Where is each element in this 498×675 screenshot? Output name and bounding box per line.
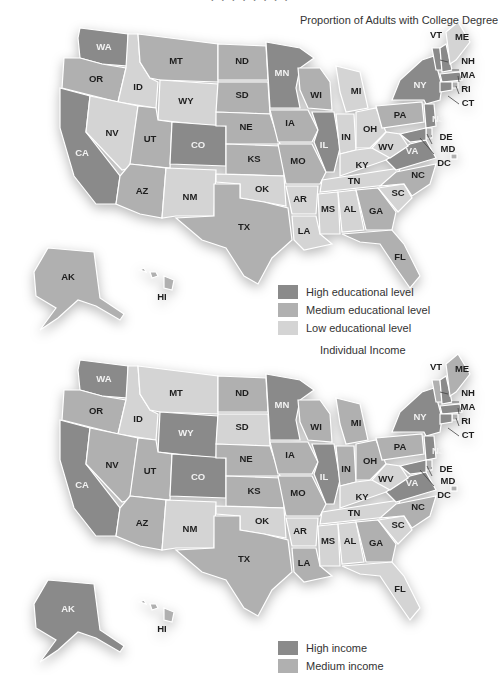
state-label-in: IN [341, 131, 351, 142]
state-label-ut: UT [144, 465, 157, 476]
state-label-ks: KS [247, 485, 260, 496]
state-label-id: ID [133, 81, 143, 92]
state-label-nv: NV [105, 127, 119, 138]
state-label-va: VA [406, 145, 419, 156]
state-label-ms: MS [321, 203, 335, 214]
state-label-vt: VT [430, 29, 442, 40]
state-label-wa: WA [96, 41, 111, 52]
state-label-oh: OH [363, 455, 377, 466]
state-label-al: AL [344, 535, 357, 546]
state-label-ak: AK [61, 271, 75, 282]
legend-swatch-high [278, 641, 298, 655]
state-label-de: DE [439, 131, 452, 142]
state-ri [452, 82, 458, 88]
state-de [426, 128, 432, 138]
education-map: WAORCAIDNVMTWYUTCOAZNMNDSDNEKSOKTXMNIAMO… [0, 8, 489, 338]
map-title: Proportion of Adults with College Degree [300, 14, 498, 26]
state-de [426, 460, 432, 470]
state-label-tx: TX [238, 553, 251, 564]
state-label-ca: CA [75, 147, 89, 158]
legend-swatch-high [278, 285, 298, 299]
state-label-va: VA [406, 477, 419, 488]
legend-swatch-medium [278, 659, 298, 673]
state-label-mi: MI [351, 417, 362, 428]
state-label-ar: AR [293, 525, 307, 536]
us-map: WAORCAIDNVMTWYUTCOAZNMNDSDNEKSOKTXMNIAMO… [0, 340, 489, 670]
state-label-la: LA [298, 557, 311, 568]
state-label-vt: VT [430, 361, 442, 372]
state-label-sd: SD [235, 421, 248, 432]
state-label-ri: RI [461, 83, 471, 94]
state-label-ok: OK [255, 515, 269, 526]
legend: High educational level Medium educationa… [278, 283, 430, 337]
state-ct [440, 414, 452, 424]
state-hi [140, 600, 174, 622]
state-label-mt: MT [169, 387, 183, 398]
state-label-or: OR [89, 405, 103, 416]
state-label-co: CO [191, 471, 205, 482]
state-label-tx: TX [238, 221, 251, 232]
state-label-ri: RI [461, 415, 471, 426]
map-title: Individual Income [320, 344, 406, 356]
state-hi [140, 268, 174, 290]
state-label-ne: NE [239, 453, 252, 464]
state-label-mn: MN [275, 399, 290, 410]
state-label-tn: TN [348, 507, 361, 518]
state-label-nh: NH [461, 387, 475, 398]
state-label-ga: GA [369, 205, 383, 216]
state-label-me: ME [455, 31, 469, 42]
state-label-nm: NM [183, 191, 198, 202]
state-label-nv: NV [105, 459, 119, 470]
state-ak [34, 248, 124, 330]
state-label-nd: ND [235, 55, 249, 66]
legend-swatch-low [278, 321, 298, 335]
state-label-ne: NE [239, 121, 252, 132]
state-label-wy: WY [178, 95, 194, 106]
state-dc [451, 154, 457, 159]
state-label-ks: KS [247, 153, 260, 164]
state-label-fl: FL [394, 583, 406, 594]
state-label-mo: MO [290, 155, 305, 166]
state-label-wi: WI [310, 421, 322, 432]
state-label-ak: AK [61, 603, 75, 614]
state-label-ct: CT [462, 429, 475, 440]
state-label-nm: NM [183, 523, 198, 534]
state-label-ny: NY [413, 79, 427, 90]
state-label-dc: DC [437, 489, 451, 500]
income-map: WAORCAIDNVMTWYUTCOAZNMNDSDNEKSOKTXMNIAMO… [0, 340, 489, 675]
state-label-nd: ND [235, 387, 249, 398]
state-label-tn: TN [348, 175, 361, 186]
state-label-il: IL [320, 139, 329, 150]
state-label-wv: WV [378, 473, 394, 484]
state-label-sd: SD [235, 89, 248, 100]
state-label-md: MD [441, 143, 456, 154]
state-label-wv: WV [378, 141, 394, 152]
state-label-ca: CA [75, 479, 89, 490]
state-label-wy: WY [178, 427, 194, 438]
state-label-ky: KY [355, 159, 369, 170]
legend-item-high: High educational level [278, 283, 430, 301]
legend-item-medium: Medium income [278, 657, 384, 675]
page-title-cropped: · · · · · · · · [0, 0, 489, 6]
legend-item-high: High income [278, 639, 384, 657]
state-ct [440, 82, 452, 92]
state-label-pa: PA [394, 109, 407, 120]
state-label-id: ID [133, 413, 143, 424]
state-label-dc: DC [437, 157, 451, 168]
state-label-me: ME [455, 363, 469, 374]
legend-item-medium: Medium educational level [278, 301, 430, 319]
state-label-mn: MN [275, 67, 290, 78]
state-label-nj: NJ [432, 113, 444, 124]
state-ri [452, 414, 458, 420]
state-label-mi: MI [351, 85, 362, 96]
state-label-wi: WI [310, 89, 322, 100]
state-fl [342, 230, 420, 288]
state-label-nh: NH [461, 55, 475, 66]
state-label-al: AL [344, 203, 357, 214]
state-label-md: MD [441, 475, 456, 486]
state-dc [451, 486, 457, 491]
state-label-il: IL [320, 471, 329, 482]
state-label-co: CO [191, 139, 205, 150]
state-label-ok: OK [255, 183, 269, 194]
state-label-hi: HI [157, 623, 167, 634]
